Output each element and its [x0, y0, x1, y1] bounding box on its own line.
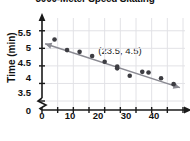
chart-figure: 3000-Meter Speed Skating Time (min) 5.5 …	[0, 0, 190, 141]
data-points	[52, 37, 176, 86]
gridlines	[42, 18, 185, 109]
plot-canvas	[0, 0, 190, 141]
